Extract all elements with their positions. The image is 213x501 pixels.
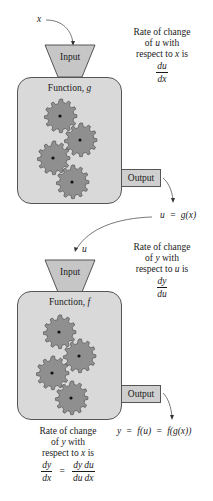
chain-line3: respect to x is bbox=[18, 448, 118, 459]
expr-f-of-g-of-x: f(g(x)) bbox=[167, 426, 191, 436]
expr-f-of-u: f(u) bbox=[137, 426, 151, 436]
output-expression-f: y = f(u) = f(g(x)) bbox=[117, 426, 191, 437]
frac-dy-du: dydu bbox=[72, 460, 83, 483]
rate-line1: Rate of change bbox=[112, 242, 212, 253]
rate-line3: respect to u is bbox=[112, 264, 212, 275]
rate-line2: of y with bbox=[112, 253, 212, 264]
derivative-dy-du: dydu bbox=[112, 276, 212, 299]
frac-du-dx: dudx bbox=[83, 460, 95, 483]
rate-description-f: Rate of change of y with respect to u is… bbox=[112, 242, 212, 299]
equals: = bbox=[124, 426, 135, 436]
chain-rule-formula: dydx = dydududx bbox=[18, 460, 118, 483]
chain-rule-description: Rate of change of y with respect to x is… bbox=[18, 426, 118, 483]
chain-line2: of y with bbox=[18, 437, 118, 448]
frac-dy-dx: dydx bbox=[41, 460, 52, 483]
chain-line1: Rate of change bbox=[18, 426, 118, 437]
equals: = bbox=[153, 426, 164, 436]
equals: = bbox=[55, 466, 70, 476]
